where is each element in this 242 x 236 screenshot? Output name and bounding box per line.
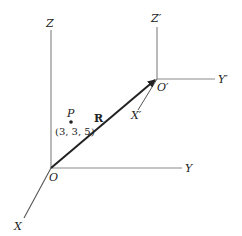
x-prime-axis-label: X′ <box>131 110 141 121</box>
point-p-dot <box>69 120 73 124</box>
y-axis-label: Y <box>185 163 192 174</box>
x-axis <box>24 168 51 218</box>
vector-r <box>51 80 155 168</box>
y-prime-axis-label: Y′ <box>218 74 228 85</box>
vector-r-label: R <box>94 113 103 124</box>
point-p-label: P <box>67 108 74 119</box>
point-p-coordinates: (3, 3, 5) <box>55 127 95 137</box>
x-prime-axis <box>138 79 157 110</box>
origin-o-prime-label: O′ <box>157 82 169 93</box>
diagram-lines <box>0 0 242 236</box>
z-axis-label: Z <box>46 18 54 29</box>
z-prime-axis-label: Z′ <box>151 13 161 24</box>
coordinate-diagram: Z Y X O Z′ Y′ X′ O′ R P (3, 3, 5) <box>0 0 242 236</box>
origin-o-label: O <box>49 172 58 183</box>
x-axis-label: X <box>14 221 22 232</box>
